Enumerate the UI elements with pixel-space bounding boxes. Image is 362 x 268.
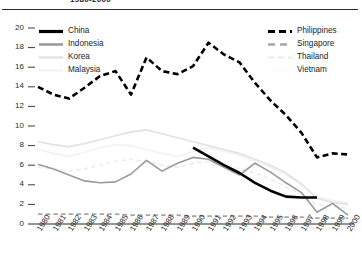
series-line-philippines [38, 43, 348, 158]
y-tick-label: 4 [2, 179, 24, 188]
y-tick-label: 20 [2, 23, 24, 32]
series-line-singapore [38, 214, 348, 218]
y-tick-label: 18 [2, 42, 24, 51]
y-tick-label: 2 [2, 199, 24, 208]
y-tick-label: 8 [2, 140, 24, 149]
y-tick-label: 12 [2, 101, 24, 110]
y-tick-label: 10 [2, 121, 24, 130]
y-tick-label: 6 [2, 160, 24, 169]
y-tick-label: 14 [2, 81, 24, 90]
y-tick-label: 0 [2, 219, 24, 228]
y-tick-label: 16 [2, 62, 24, 71]
series-line-indonesia [38, 157, 348, 215]
